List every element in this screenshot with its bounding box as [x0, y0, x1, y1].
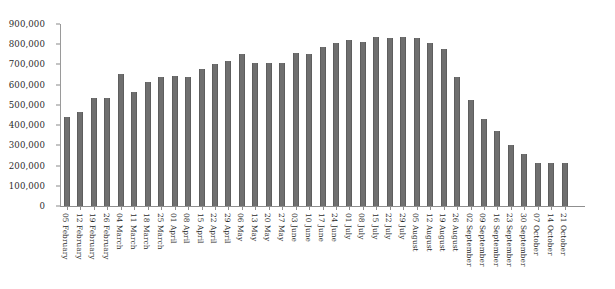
- x-axis-tick-mark: [457, 207, 458, 210]
- x-axis-tick-mark: [511, 207, 512, 210]
- x-axis-tick-mark: [349, 207, 350, 210]
- x-axis-tick-mark: [148, 207, 149, 210]
- x-axis-tick-label: 02 September: [465, 213, 474, 267]
- x-axis-tick-label: 09 September: [478, 213, 487, 267]
- x-axis-tick-mark: [202, 207, 203, 210]
- x-axis-tick-label: 29 April: [223, 213, 232, 243]
- x-axis-tick-mark: [565, 207, 566, 210]
- x-axis-tick-label: 10 June: [304, 213, 313, 242]
- x-axis-tick-mark: [175, 207, 176, 210]
- x-axis-tick-label: 27 May: [277, 213, 286, 241]
- x-axis-tick-label: 20 May: [263, 213, 272, 241]
- x-axis-tick-label: 24 June: [330, 213, 339, 242]
- x-axis-tick-label: 13 May: [250, 213, 259, 241]
- x-axis-tick-label: 03 June: [290, 213, 299, 242]
- x-axis-tick-mark: [161, 207, 162, 210]
- x-axis-tick-label: 26 February: [102, 213, 111, 260]
- x-axis-tick-label: 08 July: [357, 213, 366, 239]
- x-axis-tick-label: 30 September: [519, 213, 528, 267]
- x-axis-tick-mark: [430, 207, 431, 210]
- x-axis-tick-mark: [121, 207, 122, 210]
- x-axis-tick-label: 01 April: [169, 213, 178, 243]
- x-axis-tick-mark: [282, 207, 283, 210]
- x-axis-tick-label: 12 August: [425, 213, 434, 252]
- x-axis-tick-label: 11 March: [129, 213, 138, 250]
- x-axis-tick-label: 18 March: [142, 213, 151, 250]
- x-axis-tick-label: 06 May: [236, 213, 245, 241]
- x-axis-tick-label: 16 September: [492, 213, 501, 267]
- x-axis-tick-label: 25 March: [156, 213, 165, 250]
- x-axis-tick-mark: [323, 207, 324, 210]
- x-axis-tick-mark: [228, 207, 229, 210]
- x-axis-tick-mark: [80, 207, 81, 210]
- x-axis-tick-mark: [417, 207, 418, 210]
- x-axis-tick-label: 22 April: [209, 213, 218, 243]
- x-axis-tick-label: 19 February: [88, 213, 97, 260]
- x-axis-tick-mark: [497, 207, 498, 210]
- x-axis-tick-label: 21 October: [559, 213, 568, 256]
- x-axis-tick-mark: [242, 207, 243, 210]
- x-axis-tick-mark: [444, 207, 445, 210]
- x-axis-tick-mark: [376, 207, 377, 210]
- x-axis-tick-mark: [94, 207, 95, 210]
- bar-chart: 0100,000200,000300,000400,000500,000600,…: [0, 0, 615, 289]
- x-axis-tick-mark: [484, 207, 485, 210]
- x-axis-tick-mark: [551, 207, 552, 210]
- x-axis-tick-mark: [524, 207, 525, 210]
- x-axis-tick-label: 08 April: [182, 213, 191, 243]
- x-axis-tick-label: 05 February: [61, 213, 70, 260]
- x-axis-tick-label: 07 October: [532, 213, 541, 256]
- x-axis-tick-mark: [107, 207, 108, 210]
- x-axis-tick-label: 22 July: [384, 213, 393, 239]
- x-axis-tick-mark: [390, 207, 391, 210]
- x-axis-tick-label: 29 July: [398, 213, 407, 239]
- x-axis-tick-mark: [336, 207, 337, 210]
- x-axis-tick-mark: [269, 207, 270, 210]
- x-axis: 05 February12 February19 February26 Febr…: [0, 0, 615, 289]
- x-axis-tick-label: 15 July: [371, 213, 380, 239]
- x-axis-tick-mark: [363, 207, 364, 210]
- x-axis-tick-label: 04 March: [115, 213, 124, 250]
- x-axis-tick-label: 01 July: [344, 213, 353, 239]
- x-axis-tick-label: 15 April: [196, 213, 205, 243]
- x-axis-tick-label: 14 October: [546, 213, 555, 256]
- x-axis-tick-label: 17 June: [317, 213, 326, 242]
- x-axis-tick-label: 19 August: [438, 213, 447, 252]
- x-axis-tick-mark: [309, 207, 310, 210]
- x-axis-tick-mark: [538, 207, 539, 210]
- x-axis-tick-label: 12 February: [75, 213, 84, 260]
- x-axis-tick-mark: [215, 207, 216, 210]
- x-axis-tick-mark: [134, 207, 135, 210]
- x-axis-tick-mark: [255, 207, 256, 210]
- x-axis-tick-mark: [403, 207, 404, 210]
- x-axis-tick-mark: [471, 207, 472, 210]
- x-axis-tick-mark: [188, 207, 189, 210]
- x-axis-tick-mark: [296, 207, 297, 210]
- x-axis-tick-label: 23 September: [505, 213, 514, 267]
- x-axis-tick-label: 26 August: [451, 213, 460, 252]
- x-axis-tick-label: 05 August: [411, 213, 420, 252]
- x-axis-tick-mark: [67, 207, 68, 210]
